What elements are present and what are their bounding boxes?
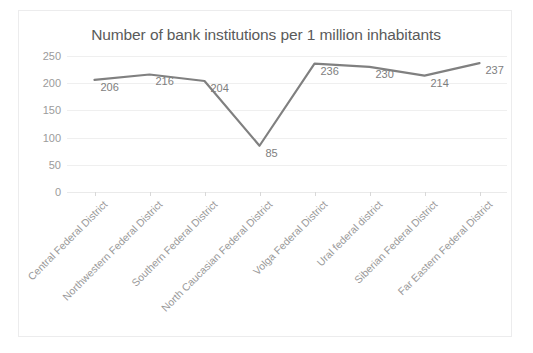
y-tick-label-150: 150 bbox=[43, 104, 61, 116]
y-tick-label-250: 250 bbox=[43, 50, 61, 62]
x-tick-5 bbox=[370, 192, 371, 196]
chart-container: Number of bank institutions per 1 millio… bbox=[18, 10, 512, 337]
y-tick-label-50: 50 bbox=[49, 159, 61, 171]
x-tick-label-3: North Caucasian Federal District bbox=[158, 198, 274, 314]
data-label-0: 206 bbox=[101, 81, 119, 93]
data-label-7: 237 bbox=[486, 64, 504, 76]
y-tick-label-100: 100 bbox=[43, 132, 61, 144]
x-tick-6 bbox=[425, 192, 426, 196]
data-label-6: 214 bbox=[431, 77, 449, 89]
x-tick-1 bbox=[150, 192, 151, 196]
x-tick-label-7: Far Eastern Federal District bbox=[395, 198, 494, 297]
data-label-4: 236 bbox=[321, 65, 339, 77]
gridline-0 bbox=[67, 192, 507, 193]
x-tick-4 bbox=[315, 192, 316, 196]
x-tick-0 bbox=[95, 192, 96, 196]
x-tick-2 bbox=[205, 192, 206, 196]
data-label-1: 216 bbox=[156, 75, 174, 87]
data-label-3: 85 bbox=[266, 147, 278, 159]
y-tick-label-200: 200 bbox=[43, 77, 61, 89]
x-tick-label-1: Northwestern Federal District bbox=[59, 198, 164, 303]
x-tick-7 bbox=[480, 192, 481, 196]
data-label-5: 230 bbox=[376, 68, 394, 80]
data-label-2: 204 bbox=[211, 82, 229, 94]
chart-title: Number of bank institutions per 1 millio… bbox=[19, 26, 513, 44]
plot-area: 050100150200250 20621620485236230214237 … bbox=[67, 56, 507, 192]
y-tick-label-0: 0 bbox=[55, 186, 61, 198]
x-tick-3 bbox=[260, 192, 261, 196]
series-polyline bbox=[95, 63, 480, 146]
